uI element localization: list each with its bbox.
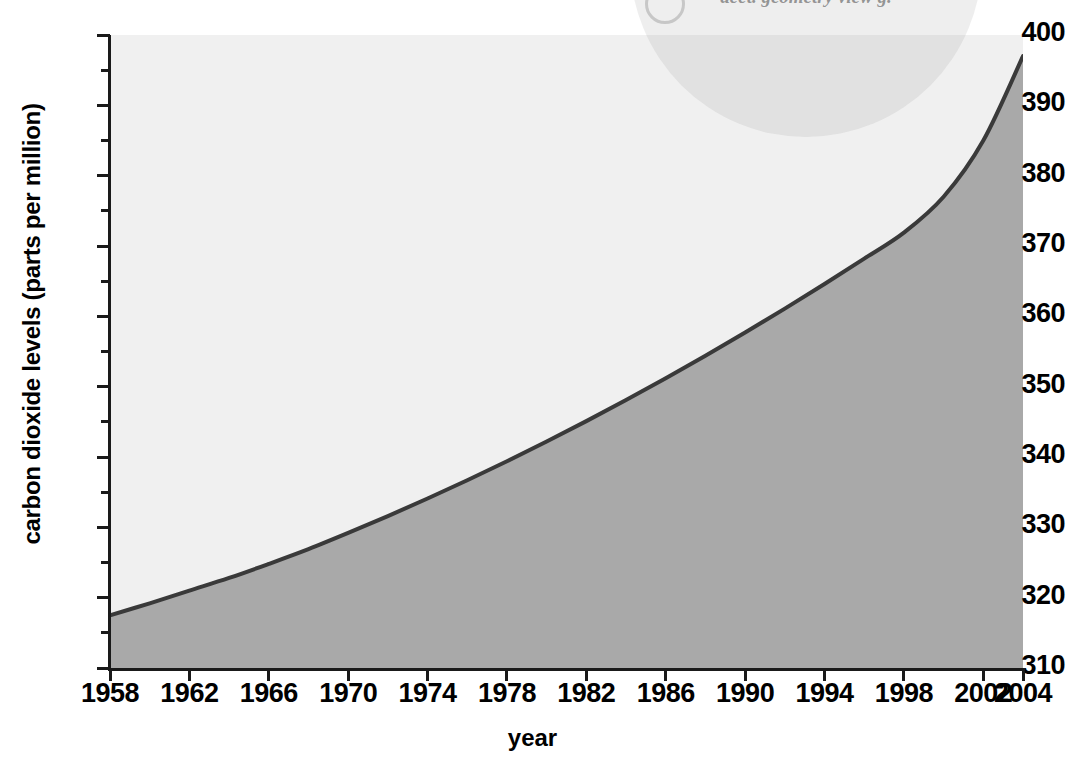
- y-tick-label: 340: [979, 439, 1065, 470]
- y-tick-label: 330: [979, 509, 1065, 540]
- y-tick-minor: [101, 420, 110, 423]
- y-axis-title: carbon dioxide levels (parts per million…: [18, 4, 46, 644]
- y-tick-minor: [101, 69, 110, 72]
- y-tick-label: 400: [979, 17, 1065, 48]
- chart-plot-svg: [110, 35, 1023, 668]
- y-tick-minor: [101, 491, 110, 494]
- x-tick-label: 2004: [973, 678, 1070, 709]
- y-tick-label: 390: [979, 87, 1065, 118]
- x-axis-line: [108, 668, 1025, 671]
- circle-badge-icon: [645, 0, 685, 24]
- y-tick-major: [97, 526, 110, 529]
- y-tick-major: [97, 315, 110, 318]
- y-tick-major: [97, 34, 110, 37]
- watermark-text: acct. geometry view g.: [630, 0, 982, 8]
- y-tick-minor: [101, 139, 110, 142]
- y-tick-minor: [101, 280, 110, 283]
- y-tick-label: 370: [979, 228, 1065, 259]
- y-tick-major: [97, 245, 110, 248]
- y-tick-label: 360: [979, 298, 1065, 329]
- y-tick-minor: [101, 350, 110, 353]
- y-axis-line: [108, 35, 111, 671]
- y-tick-minor: [101, 631, 110, 634]
- y-tick-minor: [101, 209, 110, 212]
- y-tick-label: 380: [979, 158, 1065, 189]
- y-tick-major: [97, 104, 110, 107]
- y-tick-major: [97, 456, 110, 459]
- y-tick-major: [97, 385, 110, 388]
- x-axis-title: year: [0, 724, 1065, 752]
- y-tick-minor: [101, 561, 110, 564]
- y-tick-label: 320: [979, 580, 1065, 611]
- y-tick-label: 350: [979, 369, 1065, 400]
- plot-area: [110, 35, 1023, 668]
- y-tick-major: [97, 174, 110, 177]
- y-tick-major: [97, 596, 110, 599]
